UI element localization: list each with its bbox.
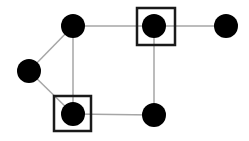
node-n_top_right [214, 14, 238, 38]
node-n_left [17, 59, 41, 83]
nodes-layer [17, 14, 238, 127]
edge-n_bottom_left-n_bottom_right [73, 114, 154, 115]
node-n_bottom_right [142, 103, 166, 127]
node-n_top_left [61, 14, 85, 38]
node-n_top_mid [142, 14, 166, 38]
graph-diagram [0, 0, 249, 141]
edges-layer [29, 26, 226, 115]
node-n_bottom_left [61, 102, 85, 126]
